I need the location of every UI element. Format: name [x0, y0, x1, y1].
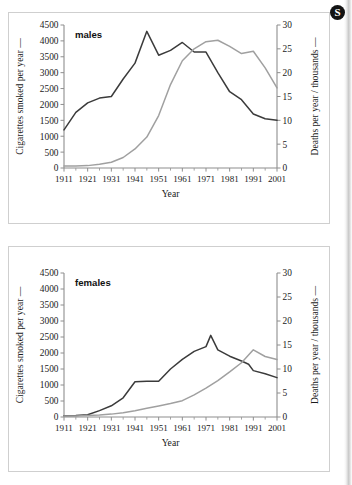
left-axis-tick-label: 3000 — [40, 316, 59, 326]
right-axis-title: Deaths per year / thousands — — [309, 37, 320, 155]
x-axis-tick-label: 1941 — [126, 423, 144, 433]
chart-svg-females: 050010001500200025003000350040004500Ciga… — [9, 247, 329, 471]
left-axis-tick-label: 3500 — [40, 52, 59, 62]
x-axis-tick-label: 1931 — [102, 423, 120, 433]
left-axis-tick-label: 3000 — [40, 68, 59, 78]
chart-panel-males: 050010001500200025003000350040004500Ciga… — [8, 12, 330, 224]
right-axis-tick-label: 10 — [283, 364, 293, 374]
left-axis-tick-label: 1500 — [40, 364, 59, 374]
left-axis-tick-label: 2000 — [40, 348, 59, 358]
left-axis-tick-label: 1000 — [40, 132, 59, 142]
right-axis-tick-label: 25 — [283, 44, 293, 54]
chart-panel-females: 050010001500200025003000350040004500Ciga… — [8, 246, 330, 472]
x-axis-tick-label: 1931 — [102, 174, 120, 184]
left-axis-tick-label: 2500 — [40, 84, 59, 94]
x-axis-tick-label: 1911 — [55, 423, 73, 433]
left-axis-tick-label: 500 — [44, 148, 58, 158]
right-axis-tick-label: 0 — [283, 412, 288, 422]
x-axis-tick-label: 1981 — [221, 423, 239, 433]
x-axis-tick-label: 1941 — [126, 174, 144, 184]
x-axis-tick-label: 1951 — [150, 174, 168, 184]
left-axis-tick-label: 4500 — [40, 20, 59, 30]
left-axis-tick-label: 2000 — [40, 100, 59, 110]
right-axis-tick-label: 20 — [283, 316, 293, 326]
x-axis-tick-label: 1971 — [197, 423, 215, 433]
series-line-deaths — [64, 350, 277, 416]
chart-title-females: females — [75, 277, 111, 288]
left-axis-tick-label: 4000 — [40, 36, 59, 46]
x-axis-title: Year — [162, 188, 180, 199]
x-axis-tick-label: 1981 — [221, 174, 239, 184]
right-axis-tick-label: 0 — [283, 163, 288, 173]
right-axis-title: Deaths per year / thousands — — [309, 286, 320, 404]
left-axis-tick-label: 0 — [54, 412, 59, 422]
page-edge-shadow — [344, 0, 352, 485]
page-canvas: S 050010001500200025003000350040004500Ci… — [0, 0, 352, 485]
right-axis-tick-label: 10 — [283, 116, 293, 126]
x-axis-tick-label: 2001 — [268, 174, 286, 184]
right-axis-tick-label: 30 — [283, 268, 293, 278]
right-axis-tick-label: 30 — [283, 20, 293, 30]
left-axis-tick-label: 500 — [44, 396, 58, 406]
right-axis-tick-label: 25 — [283, 292, 293, 302]
left-axis-title: Cigarettes smoked per year — — [14, 38, 25, 155]
x-axis-tick-label: 1961 — [173, 174, 191, 184]
left-axis-tick-label: 1000 — [40, 380, 59, 390]
x-axis-tick-label: 2001 — [268, 423, 286, 433]
x-axis-tick-label: 1991 — [244, 423, 262, 433]
x-axis-tick-label: 1921 — [79, 423, 97, 433]
right-axis-tick-label: 5 — [283, 388, 288, 398]
right-axis-tick-label: 15 — [283, 92, 293, 102]
x-axis-tick-label: 1911 — [55, 174, 73, 184]
left-axis-tick-label: 0 — [54, 163, 59, 173]
x-axis-title: Year — [162, 437, 180, 448]
left-axis-title: Cigarettes smoked per year — — [14, 286, 25, 403]
x-axis-tick-label: 1971 — [197, 174, 215, 184]
right-axis-tick-label: 5 — [283, 140, 288, 150]
x-axis-tick-label: 1951 — [150, 423, 168, 433]
x-axis-tick-label: 1961 — [173, 423, 191, 433]
left-axis-tick-label: 2500 — [40, 332, 59, 342]
left-axis-tick-label: 4500 — [40, 268, 59, 278]
left-axis-tick-label: 1500 — [40, 116, 59, 126]
x-axis-tick-label: 1921 — [79, 174, 97, 184]
section-badge: S — [330, 5, 345, 20]
right-axis-tick-label: 20 — [283, 68, 293, 78]
chart-svg-males: 050010001500200025003000350040004500Ciga… — [9, 13, 329, 223]
series-line-cigarettes — [64, 31, 277, 130]
left-axis-tick-label: 4000 — [40, 284, 59, 294]
chart-title-males: males — [75, 29, 102, 40]
right-axis-tick-label: 15 — [283, 340, 293, 350]
left-axis-tick-label: 3500 — [40, 300, 59, 310]
x-axis-tick-label: 1991 — [244, 174, 262, 184]
